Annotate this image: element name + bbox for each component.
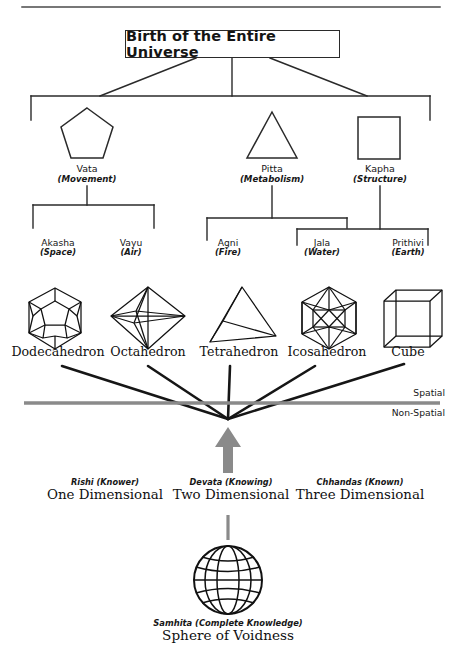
samhita-name: Sphere of Voidness [153,628,302,643]
tetrahedron-icon [210,287,276,342]
dimension-name: One Dimensional [47,487,163,502]
solid-label-octahedron: Octahedron [110,345,185,359]
ray-cube [228,364,404,419]
element-sub: (Earth) [391,248,424,257]
connector-root-vata [100,58,196,96]
pentagon-icon [61,108,113,158]
dimension-sub: Rishi (Knower) [47,478,163,487]
element-label-prithivi: Prithivi (Earth) [391,238,424,258]
dimension-label-one: Rishi (Knower) One Dimensional [47,478,163,502]
element-sub: (Fire) [215,248,241,257]
sphere-wireframe-icon [194,546,262,614]
dosha-label-pitta: Pitta (Metabolism) [240,164,304,184]
element-sub: (Space) [40,248,76,257]
upward-arrow-icon [215,427,241,473]
dimension-label-two: Devata (Knowing) Two Dimensional [173,478,290,502]
diagram-canvas [0,0,462,672]
solid-label-dodecahedron: Dodecahedron [11,345,104,359]
non-spatial-label: Non-Spatial [392,407,445,418]
dosha-sub: (Structure) [353,175,407,185]
root-title-box: Birth of the Entire Universe [125,30,340,58]
connector-root-kapha [270,58,367,96]
dimension-sub: Chhandas (Known) [296,478,424,487]
diagram-page: Birth of the Entire Universe Vata (Movem… [0,0,462,672]
dodecahedron-icon [29,288,81,349]
element-label-vayu: Vayu (Air) [120,238,142,258]
samhita-label: Samhita (Complete Knowledge) Sphere of V… [153,619,302,644]
element-sub: (Air) [120,248,142,257]
dimension-sub: Devata (Knowing) [173,478,290,487]
dosha-sub: (Metabolism) [240,175,304,185]
ray-tetrahedron [228,366,230,419]
dimension-name: Three Dimensional [296,487,424,502]
element-sub: (Water) [304,248,340,257]
icosahedron-icon [302,287,356,349]
cube-icon [384,290,442,347]
dosha-label-vata: Vata (Movement) [58,164,117,184]
element-label-akasha: Akasha (Space) [40,238,76,258]
ray-dodecahedron [62,366,228,419]
solid-label-icosahedron: Icosahedron [288,345,367,359]
page-title: Birth of the Entire Universe [126,28,339,60]
spatial-label: Spatial [413,387,445,398]
ray-icosahedron [228,366,315,419]
dosha-sub: (Movement) [58,175,117,185]
dosha-label-kapha: Kapha (Structure) [353,164,407,184]
dimension-name: Two Dimensional [173,487,290,502]
octahedron-icon [111,287,185,349]
element-label-jala: Jala (Water) [304,238,340,258]
triangle-icon [247,112,297,158]
dimension-label-three: Chhandas (Known) Three Dimensional [296,478,424,502]
square-icon [358,117,400,159]
convergence-rays [62,364,404,419]
ray-octahedron [148,366,228,419]
solid-label-tetrahedron: Tetrahedron [200,345,279,359]
element-label-agni: Agni (Fire) [215,238,241,258]
solid-label-cube: Cube [391,345,424,359]
